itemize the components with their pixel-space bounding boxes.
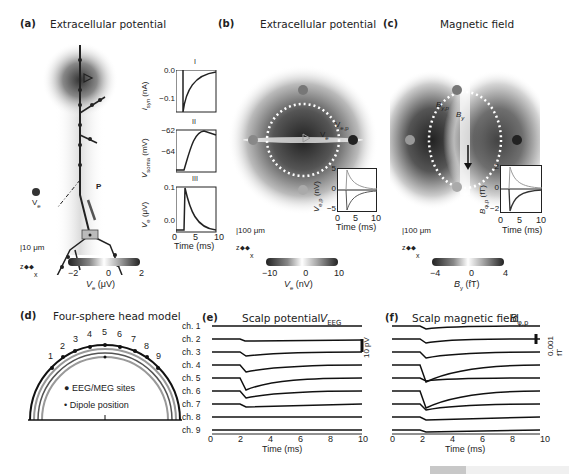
inset-b-ylabel: Ve,p (nV)	[312, 181, 323, 212]
panel-a-title: Extracellular potential	[50, 18, 166, 30]
axes-indicator-b: z⬥⬥x	[236, 244, 254, 259]
time-axis-label-f: Time (ms)	[445, 444, 485, 454]
label-by: By	[456, 110, 464, 121]
inset-c-ylabel: Bφ,p (fT)	[478, 185, 489, 214]
inset-I-ylabel: isyn (nA)	[140, 82, 151, 110]
dipole-label: P	[96, 182, 101, 191]
inset-III-yticks: 0.10.0	[157, 183, 175, 225]
label-vep: Ve,p	[335, 120, 349, 131]
scalp-magnetic-traces	[390, 320, 550, 440]
legend-eeg-meg-sites: ● EEG/MEG sites	[64, 383, 135, 393]
scale-bar-b: |100 μm	[236, 226, 265, 235]
label-byp: By,p	[436, 100, 449, 111]
probe-label: Ve	[32, 198, 41, 209]
inset-III-ylabel: Ve (μV)	[140, 202, 151, 228]
colorbar-b-ticks: −10010	[262, 268, 344, 278]
scale-bar-c: |100 μm	[402, 226, 431, 235]
time-axis-label-e: Time (ms)	[262, 444, 302, 454]
colorbar-b-label: Ve (nV)	[284, 279, 313, 291]
channel-labels-e: ch. 1ch. 2ch. 3ch. 4ch. 5ch. 6ch. 7ch. 8…	[182, 320, 200, 437]
colorbar-c-label: By (fT)	[454, 279, 480, 291]
head-model-diagram	[25, 335, 185, 425]
scrollbar-thumb[interactable]	[430, 466, 466, 474]
inset-II-yticks: −62−64	[157, 126, 175, 156]
inset-III-label: III	[192, 175, 198, 182]
colorbar-a-label: Ve (μV)	[86, 279, 115, 291]
inset-b-yticks: 50−5	[326, 164, 336, 213]
inset-c-plot	[500, 165, 542, 213]
inset-II-label: II	[192, 118, 196, 125]
inset-c-xticks: 0510	[498, 215, 546, 225]
axes-indicator-c: z⬥⬥x	[402, 244, 420, 259]
inset-II-ylabel: Vsoma (mV)	[140, 138, 151, 178]
scalp-potential-traces	[210, 320, 375, 440]
colorbar-a	[68, 258, 140, 266]
panel-d-title: Four-sphere head model	[53, 310, 181, 322]
inset-b-xlabel: Time (ms)	[336, 222, 376, 232]
panel-c-title: Magnetic field	[440, 18, 514, 30]
inset-c-xlabel: Time (ms)	[502, 225, 542, 235]
panel-d-label: (d)	[20, 310, 36, 321]
panel-a-label: (a)	[20, 18, 36, 29]
inset-I-yticks: 0.0−0.1	[157, 66, 175, 103]
horizontal-scrollbar[interactable]	[430, 466, 569, 474]
inset-b-plot	[337, 168, 377, 212]
neuron-morphology	[0, 35, 135, 275]
time-axis-e: 0246810	[208, 434, 368, 444]
colorbar-b	[266, 258, 338, 266]
time-axis-f: 0246810	[390, 434, 550, 444]
scale-bar-f: 0.001 fT	[546, 333, 564, 356]
label-ve: Ve	[320, 130, 329, 141]
inset-c-yticks: 20−2	[490, 162, 499, 213]
inset-a-xlabel: Time (ms)	[174, 241, 214, 251]
axes-indicator-a: z⬥⬥x	[20, 263, 38, 278]
legend-dipole-position: • Dipole position	[64, 400, 129, 410]
scale-bar-a: |10 μm	[20, 243, 44, 252]
panel-b-title: Extracellular potential	[260, 18, 376, 30]
colorbar-c	[432, 258, 504, 266]
colorbar-a-ticks: −202	[68, 268, 144, 278]
inset-I-label: I	[194, 58, 196, 65]
scale-bar-e: 10 pV	[362, 337, 371, 358]
panel-b-label: (b)	[218, 18, 234, 29]
probe-dot	[32, 188, 40, 196]
colorbar-c-ticks: −404	[430, 268, 508, 278]
panel-c-label: (c)	[383, 18, 398, 29]
